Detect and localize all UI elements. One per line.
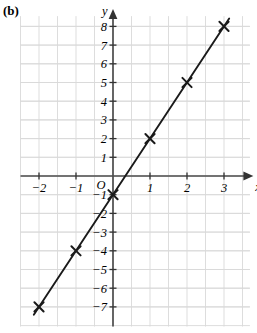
coordinate-grid-plot: −2−112387654321−1−2−3−4−5−6−7 x y O [0, 0, 257, 333]
x-tick-label: −2 [32, 181, 47, 195]
y-tick-label: 3 [100, 113, 107, 127]
y-tick-label: 2 [101, 132, 107, 146]
x-axis-label: x [254, 180, 257, 194]
x-tick-label: 2 [184, 181, 190, 195]
y-tick-label: 1 [101, 151, 107, 165]
y-tick-label: 8 [101, 20, 108, 34]
y-tick-label: 4 [101, 95, 107, 109]
y-tick-label: 6 [101, 57, 108, 71]
y-tick-label: −7 [92, 300, 107, 314]
x-axis-arrowhead [243, 172, 253, 181]
y-tick-label: −3 [92, 226, 107, 240]
y-axis-arrowhead [109, 9, 118, 19]
y-tick-label: −4 [92, 244, 107, 258]
x-tick-label: 3 [220, 181, 227, 195]
y-tick-label: 7 [101, 39, 108, 53]
figure-container: (b) −2−112387654321−1−2−3−4−5−6−7 x y O [0, 0, 257, 333]
grid-minor-lines [21, 16, 250, 326]
y-tick-label: −6 [92, 282, 107, 296]
y-tick-label: 5 [101, 76, 107, 90]
origin-label: O [96, 178, 105, 192]
y-axis-label: y [100, 4, 108, 18]
y-tick-label: −5 [92, 263, 107, 277]
axes-group [21, 9, 254, 327]
x-tick-label: −1 [69, 181, 84, 195]
x-tick-label: 1 [147, 181, 153, 195]
